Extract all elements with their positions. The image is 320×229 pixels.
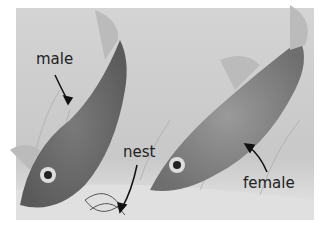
illustration-artwork	[0, 0, 320, 229]
female-label: female	[243, 176, 295, 191]
fish-illustration: male nest female	[0, 0, 320, 229]
male-label: male	[36, 52, 73, 67]
nest-label: nest	[123, 145, 155, 160]
